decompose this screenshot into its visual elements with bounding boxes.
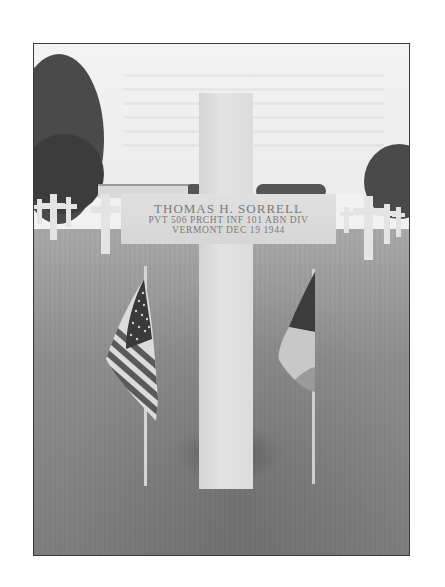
background-cross [384, 204, 390, 244]
headstone-cross-arm: THOMAS H. SORRELL PVT 506 PRCHT INF 101 … [121, 194, 336, 244]
french-flag-icon [277, 272, 319, 392]
cemetery-photo: THOMAS H. SORRELL PVT 506 PRCHT INF 101 … [33, 43, 410, 556]
headstone-cross-upright [199, 93, 253, 489]
background-cross [101, 194, 110, 254]
background-cross [396, 207, 401, 237]
background-cross [50, 194, 57, 240]
background-cross [66, 197, 71, 227]
background-cross [364, 196, 373, 260]
background-cross [37, 199, 42, 224]
inscription-name: THOMAS H. SORRELL [154, 202, 303, 216]
bleed-through-text [124, 74, 384, 158]
us-flag-icon [106, 279, 158, 424]
background-cross [344, 207, 349, 233]
inscription-state-date: VERMONT DEC 19 1944 [172, 226, 285, 236]
